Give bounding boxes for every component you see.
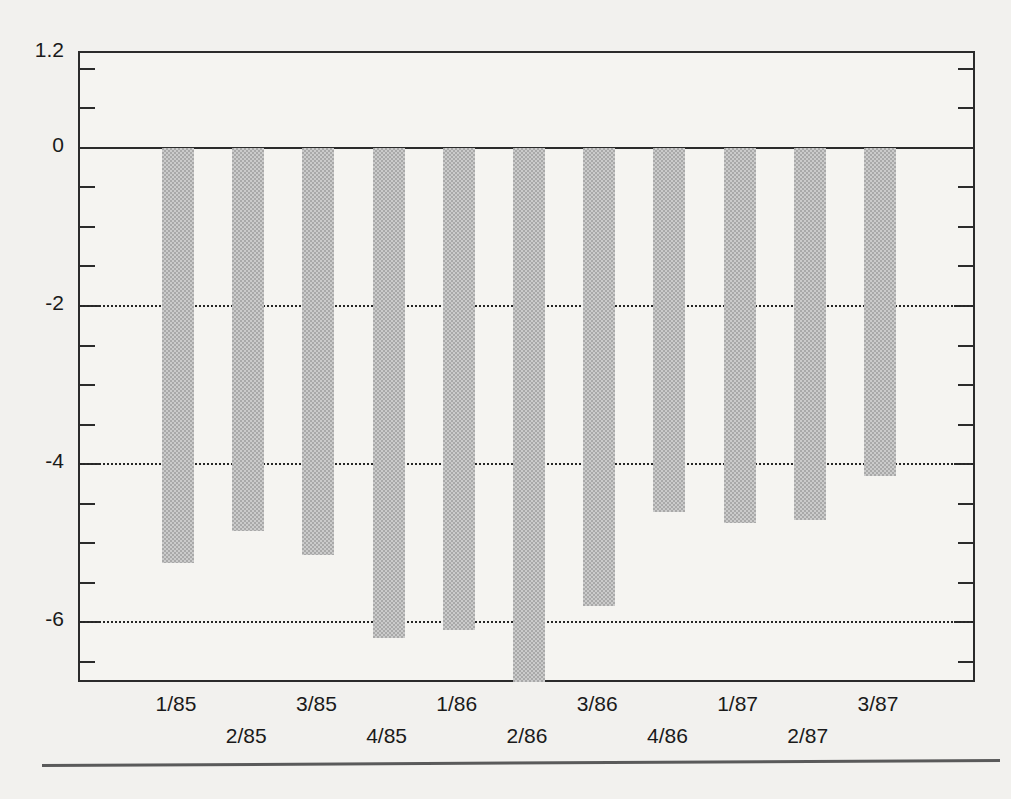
y-axis-tick: [958, 345, 973, 347]
y-axis-tick: [958, 68, 973, 70]
x-tick-label: 3/85: [271, 692, 361, 715]
y-axis-tick: [80, 661, 95, 663]
y-axis-tick: [80, 345, 95, 347]
x-tick-label: 4/85: [342, 724, 432, 747]
bar: [232, 148, 264, 532]
x-tick-label: 3/86: [552, 692, 642, 715]
bar: [373, 148, 405, 638]
bar: [653, 148, 685, 512]
y-axis-tick: [958, 107, 973, 109]
y-axis-tick: [958, 384, 973, 386]
y-axis-tick: [80, 68, 95, 70]
y-axis-tick: [80, 424, 95, 426]
y-axis-tick: [80, 503, 95, 505]
bar: [724, 148, 756, 524]
plot-frame: [78, 51, 975, 682]
y-tick-label: -2: [0, 292, 64, 313]
y-axis-tick: [958, 503, 973, 505]
x-tick-label: 2/85: [201, 724, 291, 747]
x-tick-label: 1/85: [131, 692, 221, 715]
y-axis-tick: [80, 542, 95, 544]
y-axis-tick: [80, 186, 95, 188]
y-axis-labels: 1.20-2-4-6: [0, 51, 64, 682]
bar: [302, 148, 334, 555]
y-axis-tick: [958, 542, 973, 544]
y-axis-tick: [958, 424, 973, 426]
bar: [162, 148, 194, 563]
x-tick-label: 1/87: [693, 692, 783, 715]
bar: [443, 148, 475, 630]
y-axis-tick: [958, 661, 973, 663]
x-axis-labels: 1/852/853/854/851/862/863/864/861/872/87…: [78, 682, 975, 762]
y-axis-tick: [958, 582, 973, 584]
y-tick-label: -4: [0, 450, 64, 471]
y-axis-tick: [80, 582, 95, 584]
bar: [794, 148, 826, 520]
y-axis-tick: [958, 186, 973, 188]
y-axis-tick: [80, 107, 95, 109]
plot-area: [80, 53, 973, 680]
y-tick-label: 0: [0, 134, 64, 155]
chart-figure: 1.20-2-4-6 1/852/853/854/851/862/863/864…: [0, 0, 1011, 799]
y-tick-label: 1.2: [0, 39, 64, 60]
bar: [583, 148, 615, 607]
y-tick-label: -6: [0, 608, 64, 629]
y-axis-tick: [80, 226, 95, 228]
x-tick-label: 3/87: [833, 692, 923, 715]
y-axis-tick: [80, 384, 95, 386]
x-tick-label: 2/86: [482, 724, 572, 747]
x-tick-label: 1/86: [412, 692, 502, 715]
x-tick-label: 2/87: [763, 724, 853, 747]
y-axis-tick: [80, 265, 95, 267]
y-axis-tick: [958, 265, 973, 267]
bar: [864, 148, 896, 476]
y-axis-tick: [958, 226, 973, 228]
x-tick-label: 4/86: [622, 724, 712, 747]
bar: [513, 148, 545, 682]
